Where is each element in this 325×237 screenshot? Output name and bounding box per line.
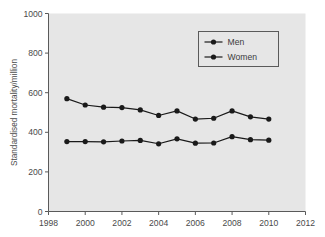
data-point: [138, 107, 143, 112]
x-tick-label: 2002: [112, 218, 131, 228]
data-point: [119, 105, 124, 110]
y-axis-title: Standardised mortality/million: [10, 59, 19, 166]
legend-marker: [211, 39, 216, 44]
y-tick-label: 1000: [23, 9, 42, 19]
data-point: [266, 116, 271, 121]
data-point: [248, 114, 253, 119]
y-tick-label: 200: [28, 167, 43, 177]
data-point: [138, 138, 143, 143]
legend-marker: [211, 54, 216, 59]
data-point: [101, 139, 106, 144]
data-point: [266, 138, 271, 143]
legend-label: Men: [228, 37, 245, 47]
data-point: [101, 105, 106, 110]
y-tick-label: 0: [38, 207, 43, 217]
data-point: [211, 140, 216, 145]
data-point: [64, 96, 69, 101]
x-tick-label: 2008: [223, 218, 242, 228]
data-point: [193, 141, 198, 146]
data-point: [248, 137, 253, 142]
data-point: [174, 136, 179, 141]
data-point: [156, 141, 161, 146]
x-tick-label: 2006: [186, 218, 205, 228]
data-point: [64, 139, 69, 144]
data-point: [119, 138, 124, 143]
y-tick-label: 800: [28, 48, 43, 58]
data-point: [174, 108, 179, 113]
data-point: [193, 116, 198, 121]
legend-label: Women: [228, 52, 258, 62]
y-tick-label: 600: [28, 88, 43, 98]
y-tick-label: 400: [28, 127, 43, 137]
x-tick-label: 2012: [296, 218, 315, 228]
data-point: [229, 108, 234, 113]
data-point: [83, 102, 88, 107]
x-tick-label: 2004: [149, 218, 168, 228]
x-tick-label: 2000: [76, 218, 95, 228]
chart-container: 02004006008001000 1998200020022004200620…: [0, 0, 325, 237]
x-tick-label: 1998: [39, 218, 58, 228]
chart-legend: MenWomen: [199, 32, 279, 67]
data-point: [229, 134, 234, 139]
data-point: [156, 113, 161, 118]
data-point: [211, 116, 216, 121]
data-point: [83, 139, 88, 144]
mortality-line-chart: 02004006008001000 1998200020022004200620…: [0, 0, 325, 237]
x-tick-label: 2010: [259, 218, 278, 228]
